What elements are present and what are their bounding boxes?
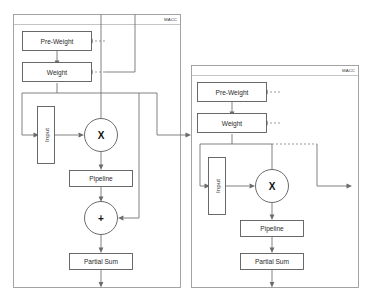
macc-right-nodes: Pre-Weight Weight Input X Pipeline Parti…	[198, 83, 304, 270]
arrow-left-accumulate-into-adder	[118, 216, 124, 221]
macc-left-input-label: Input	[43, 128, 50, 142]
macc-right-multiplier-label: X	[269, 181, 276, 192]
arrow-left-adder-to-partialsum	[99, 248, 104, 254]
macc-left-pipeline-label: Pipeline	[89, 175, 113, 183]
wire-left-output-bus-to-right-panel	[157, 93, 186, 135]
wire-left-input-feed-rail	[22, 93, 34, 135]
macc-left-panel-title: MACC	[164, 17, 177, 22]
macc-left-adder-label: +	[98, 213, 104, 224]
arrow-right-multiplier-to-pipeline	[270, 215, 275, 221]
arrow-right-pipeline-to-partialsum	[270, 248, 275, 254]
arrow-left-input-to-multiplier	[79, 133, 85, 138]
macc-right-partial-sum-label: Partial Sum	[255, 258, 290, 265]
macc-left-pre-weight-label: Pre-Weight	[41, 38, 74, 46]
wire-left-weight-control-feed	[105, 15, 135, 73]
macc-right-pipeline-label: Pipeline	[260, 225, 284, 233]
wire-right-trunk-down	[317, 144, 347, 186]
macc-left-multiplier-label: X	[98, 130, 105, 141]
arrow-right-trunk-output	[347, 184, 353, 189]
wire-right-weight-output-bus	[232, 134, 272, 170]
macc-left-nodes: Pre-Weight Weight Input X Pipeline + Par…	[23, 32, 133, 270]
macc-left-partial-sum-label: Partial Sum	[84, 258, 119, 265]
macc-right-panel: MACC	[192, 66, 359, 288]
macc-right-pre-weight-label: Pre-Weight	[216, 89, 249, 97]
arrow-right-input-to-multiplier	[250, 184, 256, 189]
arrow-right-partialsum-output	[270, 282, 275, 288]
macc-left-panel: MACC	[14, 15, 192, 288]
macc-left-weight-label: Weight	[47, 69, 68, 77]
macc-right-weight-label: Weight	[222, 120, 243, 128]
macc-right-panel-title: MACC	[342, 68, 355, 73]
macc-diagram-figure: MACC	[0, 0, 371, 303]
wire-right-input-feed-rail	[200, 144, 205, 186]
arrow-left-partialsum-output	[99, 282, 104, 288]
arrow-left-output-bus	[186, 133, 192, 138]
macc-right-input-label: Input	[214, 179, 221, 193]
arrow-left-multiplier-to-pipeline	[99, 165, 104, 171]
